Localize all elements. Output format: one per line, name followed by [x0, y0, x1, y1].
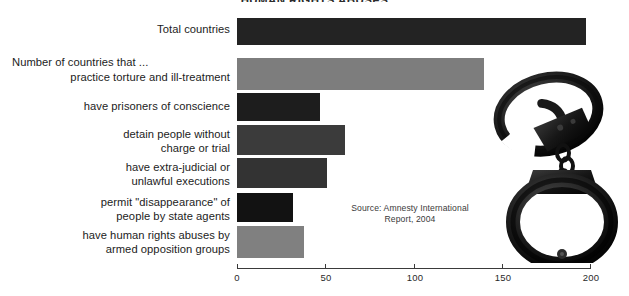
group-header-label: Number of countries that ...: [12, 56, 242, 70]
x-axis-label-100: 100: [407, 272, 423, 283]
x-axis-label-200: 200: [583, 272, 599, 283]
category-label-disappearance: permit "disappearance" of people by stat…: [20, 196, 230, 223]
category-label-torture: practice torture and ill-treatment: [20, 71, 230, 85]
category-label-detain-without-charge: detain people without charge or trial: [20, 128, 230, 155]
x-axis-tick-150: [502, 264, 503, 269]
bar-armed-opposition: [237, 226, 304, 258]
category-label-prisoners-of-conscience: have prisoners of conscience: [20, 100, 230, 114]
human-rights-bar-chart: HUMAN RIGHTS ABUSES Total countries Numb…: [0, 0, 629, 296]
x-axis-tick-100: [414, 264, 415, 269]
x-axis-label-150: 150: [495, 272, 511, 283]
category-label-total-countries: Total countries: [20, 23, 230, 37]
x-axis-tick-50: [325, 264, 326, 269]
bar-torture: [237, 58, 484, 90]
x-axis-tick-0: [237, 264, 238, 269]
x-axis-label-50: 50: [321, 272, 332, 283]
bar-detain-without-charge: [237, 125, 345, 155]
handcuffs-photo: [487, 58, 629, 263]
category-label-armed-opposition: have human rights abuses by armed opposi…: [20, 229, 230, 256]
x-axis-label-0: 0: [234, 272, 239, 283]
source-note: Source: Amnesty International Report, 20…: [340, 203, 480, 225]
bar-prisoners-of-conscience: [237, 93, 320, 121]
x-axis-tick-200: [590, 264, 591, 269]
bar-total-countries: [237, 18, 586, 45]
category-label-extrajudicial-executions: have extra-judicial or unlawful executio…: [20, 161, 230, 188]
bar-disappearance: [237, 193, 293, 222]
plot-area: Total countries Number of countries that…: [0, 0, 629, 296]
bar-extrajudicial: [237, 158, 327, 188]
